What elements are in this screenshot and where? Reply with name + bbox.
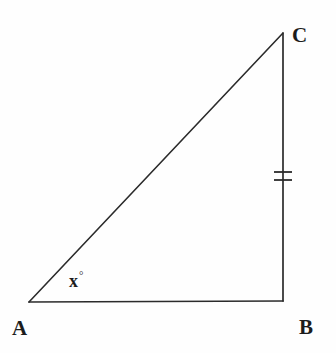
vertex-label-a: A bbox=[12, 318, 27, 339]
angle-label-x: x° bbox=[69, 271, 82, 290]
vertex-label-c: C bbox=[292, 25, 307, 46]
degree-symbol-icon: ° bbox=[79, 269, 83, 281]
geometry-figure: A B C x° bbox=[0, 0, 336, 353]
side-ca-line bbox=[29, 33, 283, 302]
angle-variable: x bbox=[69, 271, 78, 291]
triangle-drawing bbox=[0, 0, 336, 353]
vertex-label-b: B bbox=[299, 317, 313, 338]
side-ab-line bbox=[29, 301, 283, 302]
